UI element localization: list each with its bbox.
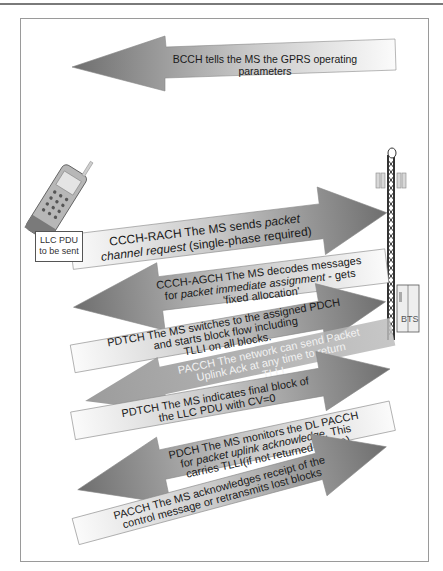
llc-pdu-label: LLC PDU to be sent <box>35 231 83 262</box>
step-1-line2: parameters <box>238 65 291 77</box>
bts-cabinet-icon: BTS <box>397 285 419 332</box>
arrow-bcch: BCCH tells the MS the GPRS operating par… <box>72 36 396 91</box>
bts-label: BTS <box>401 314 419 324</box>
step-1-line1: BCCH tells the MS the GPRS operating <box>173 53 358 65</box>
llc-pdu-label-line2: to be sent <box>36 246 82 257</box>
mobile-phone-icon <box>24 150 96 242</box>
signalling-diagram: BTS BCCH tells the MS the GPRS operating… <box>0 0 443 571</box>
llc-pdu-label-line1: LLC PDU <box>36 235 82 246</box>
